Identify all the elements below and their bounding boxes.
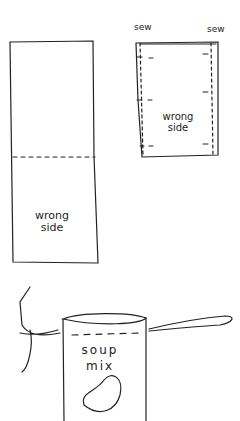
soup-bag-panel: [20, 287, 232, 421]
bag-left-side: [63, 319, 64, 421]
label-side: side: [158, 122, 198, 133]
soup-bag-label: soup mix: [80, 342, 120, 374]
label-mix: mix: [80, 358, 120, 374]
label-soup: soup: [80, 342, 120, 358]
label-side: side: [32, 222, 72, 234]
tie-loop: [149, 316, 232, 331]
drawstring-ends: [20, 287, 60, 372]
sew-label-left: sew: [134, 22, 152, 32]
bag-drawstring-channel: [72, 333, 140, 335]
sewn-pouch-panel: [136, 42, 218, 157]
sew-label-right: sew: [207, 24, 225, 34]
label-wrong: wrong: [158, 111, 198, 122]
pouch-label: wrong side: [158, 111, 198, 133]
folded-fabric-label: wrong side: [32, 210, 72, 234]
bean-shape: [83, 376, 120, 412]
right-seam: [211, 43, 213, 155]
bag-mouth: [63, 314, 146, 324]
